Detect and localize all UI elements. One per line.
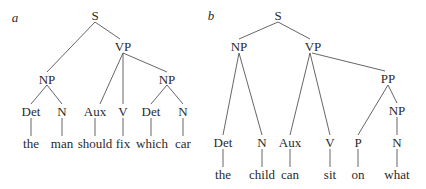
tree-edges (0, 0, 426, 189)
tree-a-node-n1: N (57, 105, 66, 118)
tree-a-node-det1: Det (22, 105, 41, 118)
tree-branch (290, 53, 310, 135)
tree-branch (167, 85, 183, 104)
tree-b-node-n1: N (257, 136, 266, 149)
tree-a-word-w4: fix (116, 137, 130, 150)
tree-branch (278, 22, 310, 39)
tree-a-node-vp: VP (115, 40, 132, 53)
tree-b-node-v: V (325, 136, 334, 149)
tree-b-node-n2: N (392, 136, 401, 149)
tree-branch (100, 53, 123, 104)
tree-a-node-np1: NP (39, 73, 56, 86)
tree-b-word-w3: can (281, 168, 299, 181)
tree-branch (151, 85, 167, 104)
tree-a-word-w3: should (78, 137, 113, 150)
tree-branch (47, 22, 95, 72)
tree-branch (47, 85, 62, 104)
tree-b-word-w2: child (249, 168, 275, 181)
tree-a-node-v: V (118, 105, 127, 118)
tree-b-word-w4: sit (324, 168, 336, 181)
tree-branch (388, 85, 397, 103)
tree-b-node-det: Det (214, 136, 233, 149)
tree-a-node-n2: N (178, 105, 187, 118)
tree-b-node-np1: NP (231, 40, 248, 53)
tree-a-word-w2: man (51, 137, 73, 150)
panel-label-a: a (12, 11, 19, 24)
tree-a-node-np2: NP (159, 73, 176, 86)
tree-b-node-p: P (354, 136, 361, 149)
tree-a-node-s: S (91, 9, 98, 22)
tree-b-word-w6: what (384, 168, 409, 181)
tree-branch (239, 22, 278, 39)
tree-branch (310, 53, 330, 135)
tree-a-word-w1: the (23, 137, 39, 150)
tree-branch (312, 53, 385, 71)
tree-branch (358, 85, 388, 135)
tree-b-node-aux: Aux (279, 136, 301, 149)
tree-b-node-np2: NP (389, 104, 406, 117)
tree-a-word-w5: which (136, 137, 168, 150)
tree-branch (223, 53, 239, 135)
tree-a-node-det2: Det (142, 105, 161, 118)
syntax-tree-figure: aSVPNPNPDetNAuxVDetNthemanshouldfixwhich… (0, 0, 426, 189)
tree-branch (95, 22, 120, 39)
panel-label-b: b (208, 9, 215, 22)
tree-a-word-w6: car (175, 137, 191, 150)
tree-branch (31, 85, 47, 104)
tree-b-word-w5: on (352, 168, 365, 181)
tree-branch (123, 53, 167, 72)
tree-b-node-pp: PP (381, 72, 395, 85)
tree-a-node-aux: Aux (84, 105, 106, 118)
tree-b-word-w1: the (215, 168, 231, 181)
tree-b-node-vp: VP (305, 40, 322, 53)
tree-b-node-s: S (274, 9, 281, 22)
tree-branch (239, 53, 262, 135)
